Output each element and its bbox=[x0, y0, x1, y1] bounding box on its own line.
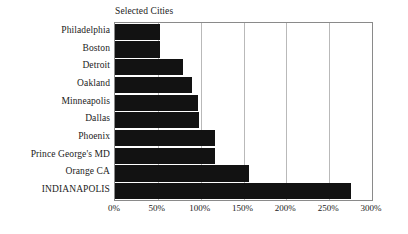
bar-row bbox=[115, 77, 372, 93]
category-axis-labels: PhiladelphiaBostonDetroitOaklandMinneapo… bbox=[0, 22, 110, 201]
x-tick-label: 100% bbox=[189, 203, 210, 213]
bar-row bbox=[115, 41, 372, 57]
category-label: Dallas bbox=[0, 113, 110, 123]
plot-area bbox=[114, 22, 373, 201]
bar-phoenix bbox=[115, 130, 215, 146]
x-tick-label: 250% bbox=[318, 203, 339, 213]
category-label: INDIANAPOLIS bbox=[0, 184, 110, 194]
category-label: Orange CA bbox=[0, 166, 110, 176]
x-tick-label: 300% bbox=[361, 203, 382, 213]
bar-row bbox=[115, 183, 372, 199]
bar-row bbox=[115, 24, 372, 40]
chart-title: Selected Cities bbox=[115, 6, 173, 16]
bar-row bbox=[115, 165, 372, 181]
x-tick-label: 200% bbox=[275, 203, 296, 213]
bar-chart-figure: Selected Cities PhiladelphiaBostonDetroi… bbox=[0, 0, 408, 234]
bar-row bbox=[115, 95, 372, 111]
bar-row bbox=[115, 130, 372, 146]
bars-layer bbox=[115, 23, 372, 200]
category-label: Detroit bbox=[0, 60, 110, 70]
bar-boston bbox=[115, 41, 160, 57]
category-label: Oakland bbox=[0, 78, 110, 88]
bar-minneapolis bbox=[115, 95, 198, 111]
bar-philadelphia bbox=[115, 24, 160, 40]
x-tick-label: 150% bbox=[232, 203, 253, 213]
x-tick-label: 0% bbox=[108, 203, 120, 213]
category-label: Philadelphia bbox=[0, 25, 110, 35]
bar-orange-ca bbox=[115, 165, 249, 181]
category-label: Minneapolis bbox=[0, 96, 110, 106]
bar-row bbox=[115, 148, 372, 164]
category-label: Boston bbox=[0, 43, 110, 53]
bar-detroit bbox=[115, 59, 183, 75]
bar-prince-george-s-md bbox=[115, 148, 215, 164]
bar-indianapolis bbox=[115, 183, 351, 199]
category-label: Phoenix bbox=[0, 131, 110, 141]
category-label: Prince George's MD bbox=[0, 149, 110, 159]
x-axis-tick-labels: 0%50%100%150%200%250%300% bbox=[114, 203, 373, 217]
bar-dallas bbox=[115, 112, 199, 128]
x-tick-label: 50% bbox=[149, 203, 166, 213]
bar-oakland bbox=[115, 77, 192, 93]
bar-row bbox=[115, 112, 372, 128]
bar-row bbox=[115, 59, 372, 75]
